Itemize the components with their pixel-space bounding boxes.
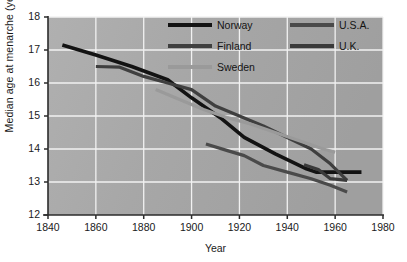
x-tick-label: 1860 [76, 221, 116, 233]
x-axis-label: Year [48, 242, 383, 254]
y-tick-label: 13 [14, 175, 40, 187]
legend-item-uk: U.K. [290, 40, 359, 52]
x-tick-label: 1880 [124, 221, 164, 233]
legend-line-swatch [168, 44, 212, 47]
legend-item-norway: Norway [168, 19, 253, 31]
legend-item-finland: Finland [168, 40, 251, 52]
legend-item-sweden: Sweden [168, 61, 255, 73]
x-tick-label: 1900 [172, 221, 212, 233]
legend-line-swatch [168, 23, 212, 27]
legend-label: Sweden [217, 61, 255, 73]
x-tick-label: 1960 [315, 221, 355, 233]
y-tick-label: 18 [14, 10, 40, 22]
x-tick-label: 1840 [28, 221, 68, 233]
legend-label: Norway [217, 19, 253, 31]
y-tick-label: 16 [14, 76, 40, 88]
chart-figure: Median age at menarche (years) Year 1213… [0, 0, 407, 262]
y-tick-label: 15 [14, 109, 40, 121]
x-tick-label: 1980 [363, 221, 403, 233]
legend-line-swatch [168, 65, 212, 68]
x-tick-label: 1940 [267, 221, 307, 233]
legend-label: U.S.A. [339, 19, 369, 31]
legend-item-usa: U.S.A. [290, 19, 369, 31]
legend-label: U.K. [339, 40, 359, 52]
legend-line-swatch [290, 44, 334, 47]
chart-legend: NorwayFinlandSwedenU.S.A.U.K. [168, 19, 358, 77]
legend-label: Finland [217, 40, 251, 52]
y-tick-label: 12 [14, 208, 40, 220]
y-tick-label: 17 [14, 43, 40, 55]
legend-line-swatch [290, 23, 334, 26]
y-tick-label: 14 [14, 142, 40, 154]
x-tick-label: 1920 [219, 221, 259, 233]
